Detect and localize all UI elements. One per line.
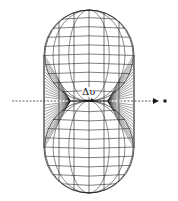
delta-upsilon-label: Δυ xyxy=(82,87,95,97)
diagram-canvas: Δυ xyxy=(0,0,178,201)
double-sphere-wireframe xyxy=(0,0,178,201)
